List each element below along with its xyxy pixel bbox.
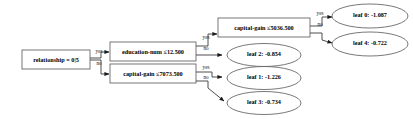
leaf-node-0[interactable]: leaf 0: -1.087 — [332, 4, 408, 28]
leaf-node-label: leaf 2: -0.854 — [247, 50, 281, 57]
decision-node-label: education-num ≤12.500 — [122, 48, 184, 55]
decision-node-relationship[interactable]: relationship = 0|5 — [22, 50, 90, 69]
edge-label-root-yes: yes — [96, 48, 103, 54]
decision-node-capital-gain-7073[interactable]: capital-gain ≤7073.500 — [110, 64, 196, 83]
tree-canvas: yes no yes no yes no yes no relationship… — [0, 0, 413, 119]
edge-label-capitalgain5036-yes: yes — [317, 10, 324, 16]
decision-tree-diagram: yes no yes no yes no yes no relationship… — [0, 0, 413, 119]
leaf-node-label: leaf 0: -1.087 — [353, 11, 387, 18]
edge-label-capitalgain5036-no: no — [317, 21, 323, 27]
decision-node-label: capital-gain ≤5036.500 — [234, 24, 293, 31]
leaf-node-4[interactable]: leaf 4: -0.722 — [332, 32, 408, 56]
decision-node-label: capital-gain ≤7073.500 — [123, 70, 182, 77]
decision-node-label: relationship = 0|5 — [33, 56, 79, 63]
edge-label-root-no: no — [96, 60, 102, 66]
leaf-node-2[interactable]: leaf 2: -0.854 — [227, 44, 301, 67]
edge-label-capitalgain7073-yes: yes — [203, 64, 210, 70]
edge-label-educationnum-yes: yes — [203, 34, 210, 40]
leaf-node-1[interactable]: leaf 1: -1.226 — [227, 67, 301, 90]
edge-label-educationnum-no: no — [203, 45, 209, 51]
edge-label-capitalgain7073-no: no — [203, 74, 209, 80]
decision-node-education-num[interactable]: education-num ≤12.500 — [110, 42, 196, 61]
edge-capitalgain7073-no — [196, 81, 224, 101]
decision-node-capital-gain-5036[interactable]: capital-gain ≤5036.500 — [218, 18, 310, 37]
leaf-node-label: leaf 4: -0.722 — [353, 39, 387, 46]
leaf-node-3[interactable]: leaf 3: -0.734 — [227, 92, 301, 115]
leaf-node-label: leaf 3: -0.734 — [247, 98, 281, 105]
edge-capitalgain7073-yes — [196, 72, 222, 77]
leaf-node-label: leaf 1: -1.226 — [247, 73, 281, 80]
edge-capitalgain5036-no — [310, 33, 332, 43]
